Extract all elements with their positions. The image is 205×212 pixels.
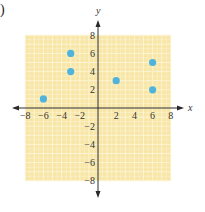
y-tick-label: −2: [84, 121, 95, 132]
y-axis-label: y: [95, 5, 101, 16]
y-tick-label: −6: [84, 157, 95, 168]
x-tick-label: −4: [56, 110, 67, 121]
y-axis-arrow-up-icon: [96, 20, 101, 27]
y-tick-label: 6: [90, 48, 95, 59]
x-tick-label: 8: [168, 110, 173, 121]
y-tick-label: 2: [90, 84, 95, 95]
x-tick-label: 6: [150, 110, 155, 121]
x-tick-label: −8: [20, 110, 31, 121]
data-point: [113, 77, 120, 84]
coordinate-plane: xy −8−6−4−224688642−2−4−6−8: [0, 0, 205, 212]
data-point: [67, 68, 74, 75]
y-tick-label: 8: [90, 30, 95, 41]
x-axis-arrow-right-icon: [177, 106, 184, 111]
x-tick-label: 4: [132, 110, 137, 121]
data-point: [67, 50, 74, 57]
data-point: [149, 86, 156, 93]
y-tick-label: −8: [84, 175, 95, 186]
data-point: [149, 59, 156, 66]
x-tick-label: 2: [114, 110, 119, 121]
x-axis-arrow-left-icon: [12, 106, 19, 111]
x-tick-label: −6: [38, 110, 49, 121]
x-axis-label: x: [187, 102, 193, 113]
y-axis-arrow-down-icon: [96, 191, 101, 198]
y-tick-label: −4: [84, 139, 95, 150]
data-point: [40, 95, 47, 102]
x-tick-label: −2: [74, 110, 85, 121]
y-tick-label: 4: [90, 66, 95, 77]
